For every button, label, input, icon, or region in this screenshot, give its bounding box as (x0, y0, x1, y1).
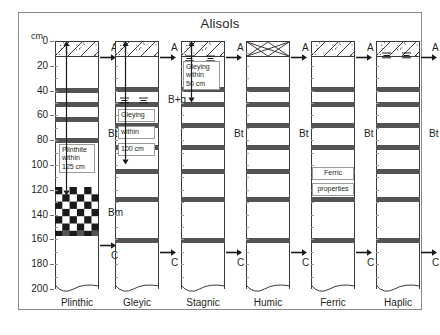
column-bottom-wavy-break (246, 283, 290, 295)
column-subtick (376, 264, 379, 265)
column-subtick (246, 252, 249, 253)
horizon-label-c: C (302, 257, 309, 268)
column-bottom-wavy-break (115, 283, 159, 295)
column-subtick (55, 190, 58, 191)
column-subtick (115, 140, 118, 141)
column-subtick (246, 53, 249, 54)
column-subtick (55, 140, 58, 141)
column-subtick (246, 91, 249, 92)
figure-title: Alisols (0, 16, 440, 31)
axis-tick-mark (50, 41, 54, 42)
depth-arrow-down (122, 43, 129, 165)
column-subtick (311, 115, 314, 116)
axis-tick-mark (50, 140, 54, 141)
axis-tick-label: 180 (22, 258, 48, 269)
depth-arrow-up (122, 41, 129, 53)
column-subtick (55, 264, 58, 265)
column-subtick (311, 91, 314, 92)
column-subtick (115, 277, 118, 278)
horizon-a (55, 41, 99, 57)
column-subtick (246, 239, 249, 240)
column-subtick (55, 153, 58, 154)
bt-band (55, 117, 99, 122)
bt-band (246, 169, 290, 174)
bt-band (376, 169, 420, 174)
axis-tick-mark (50, 264, 54, 265)
column-name-label: Gleyic (108, 297, 166, 308)
column-subtick (311, 78, 314, 79)
bt-band (246, 238, 290, 243)
boundary-arrow-b-c (160, 249, 176, 256)
bt-band (115, 197, 159, 202)
axis-tick-label: 60 (22, 109, 48, 120)
column-subtick (311, 227, 314, 228)
bt-band (246, 123, 290, 128)
bt-band (376, 238, 420, 243)
column-subtick (246, 103, 249, 104)
bt-band (115, 238, 159, 243)
horizon-label-b: Bt (364, 128, 373, 139)
column-subtick (55, 277, 58, 278)
column-subtick (115, 202, 118, 203)
column-subtick (246, 277, 249, 278)
column-subtick (55, 227, 58, 228)
gleying-glyph (139, 97, 148, 103)
column-subtick (55, 165, 58, 166)
column-subtick (181, 227, 184, 228)
bt-band (311, 197, 355, 202)
column-subtick (246, 66, 249, 67)
column-subtick (311, 128, 314, 129)
horizon-label-c: C (367, 257, 374, 268)
bt-band (181, 197, 225, 202)
column-subtick (115, 78, 118, 79)
bt-band (181, 123, 225, 128)
column-subtick (115, 66, 118, 67)
column-subtick (311, 140, 314, 141)
column-name-label: Stagnic (174, 297, 232, 308)
column-subtick (376, 215, 379, 216)
horizon-label-c: C (237, 257, 244, 268)
boundary-arrow-a-b (160, 54, 176, 61)
axis-tick-mark (50, 91, 54, 92)
column-subtick (311, 239, 314, 240)
bt-band (181, 145, 225, 150)
axis-tick-label: 100 (22, 159, 48, 170)
column-subtick (115, 215, 118, 216)
column-subtick (115, 53, 118, 54)
axis-tick-label: 120 (22, 184, 48, 195)
bt-band (55, 102, 99, 107)
column-subtick (181, 215, 184, 216)
column-subtick (311, 66, 314, 67)
horizon-label-c: C (171, 257, 178, 268)
column-subtick (376, 115, 379, 116)
bt-band (311, 87, 355, 92)
column-subtick (311, 165, 314, 166)
column-subtick (246, 128, 249, 129)
boundary-arrow-b-c (226, 249, 242, 256)
column-subtick (181, 140, 184, 141)
column-subtick (181, 128, 184, 129)
bt-band (376, 197, 420, 202)
horizon-a (311, 41, 355, 57)
bt-band (55, 138, 99, 143)
boundary-arrow-b-c (100, 242, 116, 249)
depth-arrow-down (63, 43, 70, 196)
column-subtick (55, 177, 58, 178)
horizon-label-a: A (237, 42, 244, 53)
column-subtick (55, 128, 58, 129)
column-subtick (311, 252, 314, 253)
annotation-ferric-line: properties (312, 183, 354, 196)
column-subtick (311, 153, 314, 154)
axis-tick-label: 140 (22, 209, 48, 220)
column-bottom-wavy-break (376, 283, 420, 295)
column-subtick (181, 103, 184, 104)
horizon-a (246, 41, 290, 57)
bt-band (311, 102, 355, 107)
column-subtick (55, 78, 58, 79)
horizon-label-b: Bt (299, 128, 308, 139)
column-subtick (181, 252, 184, 253)
column-subtick (181, 277, 184, 278)
column-subtick (246, 202, 249, 203)
bt-band (376, 102, 420, 107)
axis-tick-label: 0 (22, 35, 48, 46)
